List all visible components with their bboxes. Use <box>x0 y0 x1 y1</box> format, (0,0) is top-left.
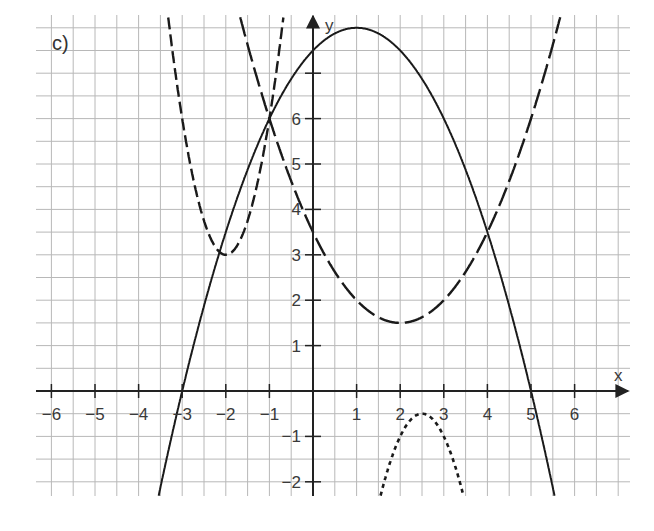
y-tick-label: −1 <box>282 427 301 446</box>
y-tick-label: 3 <box>292 246 301 265</box>
y-tick-label: 4 <box>292 200 301 219</box>
y-tick-label: 6 <box>292 110 301 129</box>
x-axis-label: x <box>614 366 623 385</box>
y-tick-label: 2 <box>292 291 301 310</box>
x-tick-label: 2 <box>395 405 404 424</box>
panel-label: c) <box>52 32 69 54</box>
x-tick-label: −3 <box>173 405 192 424</box>
y-axis-label: y <box>325 16 334 35</box>
y-tick-label: 5 <box>292 155 301 174</box>
x-tick-label: 1 <box>352 405 361 424</box>
x-tick-label: −4 <box>129 405 148 424</box>
x-tick-label: 5 <box>526 405 535 424</box>
x-tick-label: 3 <box>439 405 448 424</box>
y-tick-label: −2 <box>282 473 301 492</box>
x-tick-label: −6 <box>42 405 61 424</box>
function-graph: −6−5−4−3−2−1123456−2−1123456 c) x y <box>0 0 654 531</box>
x-tick-label: −2 <box>216 405 235 424</box>
x-tick-label: 6 <box>570 405 579 424</box>
x-tick-label: −1 <box>260 405 279 424</box>
grid <box>36 15 630 496</box>
x-tick-label: 4 <box>483 405 492 424</box>
x-tick-label: −5 <box>85 405 104 424</box>
y-tick-label: 1 <box>292 337 301 356</box>
